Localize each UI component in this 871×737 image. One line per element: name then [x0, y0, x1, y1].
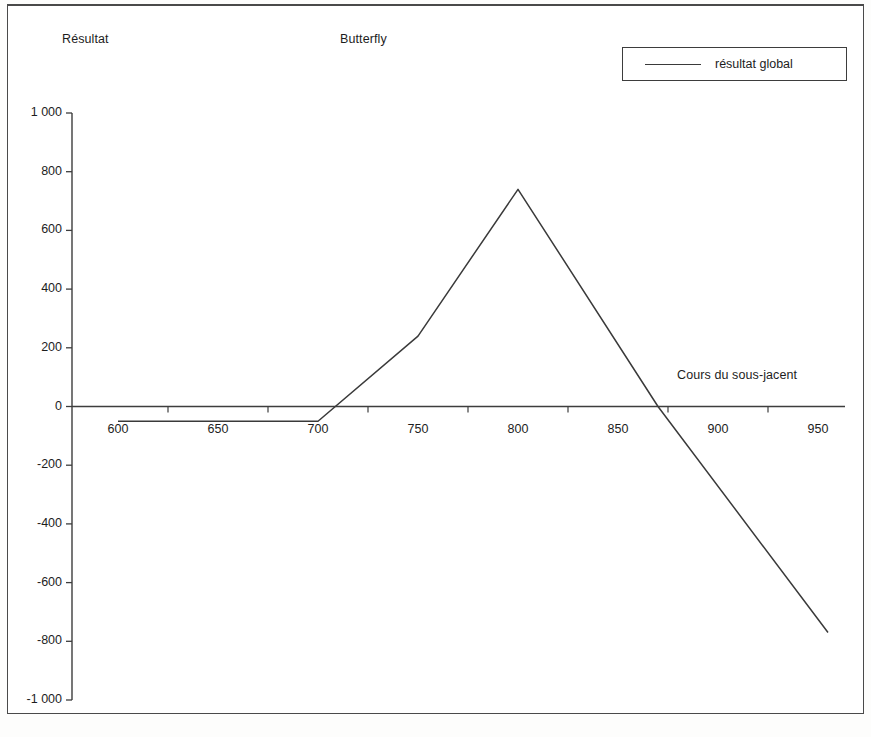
x-tick-label: 650 — [190, 422, 246, 436]
y-tick-label: 200 — [4, 340, 62, 354]
legend: résultat global — [622, 47, 847, 81]
y-tick-label: -800 — [4, 633, 62, 647]
series-line-resultat-global — [118, 189, 828, 632]
chart-title: Butterfly — [340, 32, 387, 46]
series-group — [118, 189, 828, 632]
x-tick-label: 750 — [390, 422, 446, 436]
x-tick-label: 600 — [90, 422, 146, 436]
y-tick-label: -1 000 — [4, 692, 62, 706]
y-tick-label: 0 — [4, 399, 62, 413]
butterfly-payoff-chart: Résultat Butterfly Cours du sous-jacent … — [0, 0, 871, 737]
y-tick-label: -600 — [4, 575, 62, 589]
x-tick-label: 800 — [490, 422, 546, 436]
x-tick-label: 850 — [590, 422, 646, 436]
y-tick-label: 400 — [4, 281, 62, 295]
legend-label: résultat global — [715, 57, 793, 71]
y-tick-label: -400 — [4, 516, 62, 530]
x-tick-label: 950 — [790, 422, 846, 436]
y-tick-label: 600 — [4, 222, 62, 236]
x-tick-label: 900 — [690, 422, 746, 436]
y-axis-title: Résultat — [62, 32, 109, 46]
y-tick-label: 800 — [4, 164, 62, 178]
x-axis-title: Cours du sous-jacent — [677, 368, 797, 382]
legend-line-swatch — [645, 64, 701, 65]
axes-group — [66, 113, 845, 700]
y-tick-label: 1 000 — [4, 105, 62, 119]
chart-page: Résultat Butterfly Cours du sous-jacent … — [0, 0, 871, 737]
x-tick-label: 700 — [290, 422, 346, 436]
y-tick-label: -200 — [4, 457, 62, 471]
